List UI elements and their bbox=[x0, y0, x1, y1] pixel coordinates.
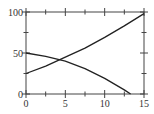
series-line-increasing bbox=[26, 14, 144, 74]
line-chart: 051015050100 bbox=[0, 0, 154, 114]
y-tick-label: 50 bbox=[13, 48, 23, 59]
x-tick-label: 0 bbox=[24, 98, 29, 109]
y-tick-label: 100 bbox=[8, 7, 23, 18]
series-lines bbox=[26, 14, 144, 94]
x-tick-label: 10 bbox=[100, 98, 110, 109]
x-tick-label: 15 bbox=[139, 98, 149, 109]
chart-svg: 051015050100 bbox=[0, 0, 154, 114]
y-tick-label: 0 bbox=[18, 89, 23, 100]
series-line-decreasing bbox=[26, 53, 131, 94]
x-tick-label: 5 bbox=[63, 98, 68, 109]
axis-ticks bbox=[22, 8, 148, 98]
